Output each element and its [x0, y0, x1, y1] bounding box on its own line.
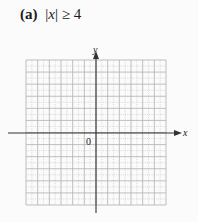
x-axis-arrow-icon: [174, 130, 182, 136]
coordinate-grid: [0, 0, 198, 222]
origin-label: 0: [86, 136, 91, 147]
y-axis-label: y: [93, 44, 97, 55]
x-axis-label: x: [183, 127, 187, 138]
